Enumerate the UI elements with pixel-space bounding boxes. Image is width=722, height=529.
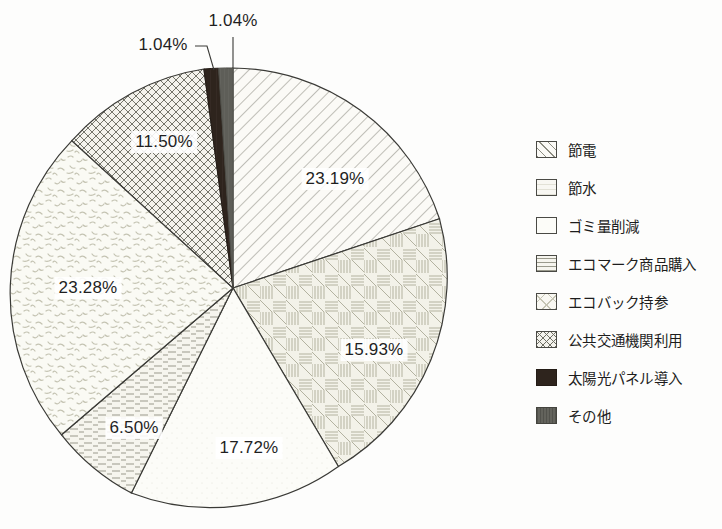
- slice-label-other: 1.04%: [208, 11, 257, 31]
- legend-label-sessui: 節水: [568, 177, 597, 198]
- legend-label-eco-mark: エコマーク商品購入: [568, 253, 697, 274]
- slice-label-gomi: 17.72%: [216, 437, 283, 459]
- legend-item-other[interactable]: その他: [536, 396, 716, 434]
- legend-item-solar[interactable]: 太陽光パネル導入: [536, 358, 716, 396]
- legend-item-setsuden[interactable]: 節電: [536, 130, 716, 168]
- leader-line-solar: [195, 46, 214, 70]
- legend-label-gomi: ゴミ量削減: [568, 215, 640, 236]
- legend-label-koukyou: 公共交通機関利用: [568, 329, 682, 350]
- legend-swatch-horizontal-dash-icon: [536, 255, 557, 272]
- legend-item-eco-mark[interactable]: エコマーク商品購入: [536, 244, 716, 282]
- slice-label-sessui: 23.28%: [55, 277, 122, 299]
- legend-item-eco-bag[interactable]: エコバック持参: [536, 282, 716, 320]
- pie-chart-figure: 23.19% 15.93% 17.72% 6.50% 23.28% 11.50%…: [0, 0, 722, 529]
- legend-swatch-plain-faint-icon: [536, 179, 557, 196]
- slice-label-koukyou: 11.50%: [131, 131, 197, 153]
- slice-label-setsuden: 23.19%: [302, 168, 369, 190]
- legend-swatch-dense-crosshatch-icon: [536, 331, 557, 348]
- legend-item-koukyou[interactable]: 公共交通機関利用: [536, 320, 716, 358]
- slice-label-eco-mark: 15.93%: [341, 339, 408, 361]
- legend-label-eco-bag: エコバック持参: [568, 291, 668, 312]
- slice-label-eco-bag: 6.50%: [105, 417, 162, 439]
- legend-label-other: その他: [568, 405, 611, 426]
- legend-item-gomi[interactable]: ゴミ量削減: [536, 206, 716, 244]
- legend-label-setsuden: 節電: [568, 139, 597, 160]
- slice-label-solar: 1.04%: [138, 35, 187, 55]
- legend-swatch-solid-dark-icon: [536, 369, 557, 386]
- legend-swatch-diagonal-hatch-icon: [536, 141, 557, 158]
- legend-item-sessui[interactable]: 節水: [536, 168, 716, 206]
- legend-swatch-solid-gray-icon: [536, 407, 557, 424]
- legend-label-solar: 太陽光パネル導入: [568, 367, 682, 388]
- legend-swatch-plain-light-icon: [536, 217, 557, 234]
- legend-swatch-sparse-cross-icon: [536, 293, 557, 310]
- legend: 節電 節水 ゴミ量削減 エコマーク商品購入 エコバック持参 公共交通機関利用 太…: [536, 130, 716, 434]
- callout-leader-lines: [195, 37, 233, 70]
